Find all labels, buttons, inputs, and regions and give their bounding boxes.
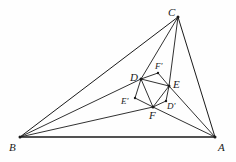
vertex-label-d: D xyxy=(130,72,138,83)
edge-layer xyxy=(20,17,215,137)
side-CA xyxy=(178,17,215,137)
vertex-label-c: C xyxy=(168,7,175,18)
cevian-C-E xyxy=(169,17,178,86)
cevian-A-F xyxy=(153,107,215,137)
vertex-label-ep: E' xyxy=(121,97,128,106)
vertex-label-b: B xyxy=(9,142,16,153)
vertex-point-e xyxy=(168,85,171,88)
vertex-label-dp: D' xyxy=(167,102,175,111)
vertex-label-f: F xyxy=(149,110,156,121)
vertex-point-c xyxy=(177,16,180,19)
vertex-point-d xyxy=(140,78,143,81)
vertex-layer xyxy=(19,16,217,139)
vertex-point-fp xyxy=(157,72,159,74)
vertex-point-a xyxy=(214,136,217,139)
cevian-A-E xyxy=(169,86,215,137)
inner-F-D xyxy=(141,79,153,107)
geometry-canvas xyxy=(0,0,236,162)
vertex-label-e: E xyxy=(173,79,180,90)
inner-D-E xyxy=(141,79,169,86)
vertex-point-ep xyxy=(134,97,136,99)
vertex-label-a: A xyxy=(218,142,225,153)
vertex-point-b xyxy=(19,136,22,139)
geometry-figure: ABCDEFD'E'F' xyxy=(0,0,236,162)
vertex-label-fp: F' xyxy=(155,62,162,71)
hexagon-F-Ep xyxy=(135,98,153,107)
cevian-B-D xyxy=(20,79,141,137)
